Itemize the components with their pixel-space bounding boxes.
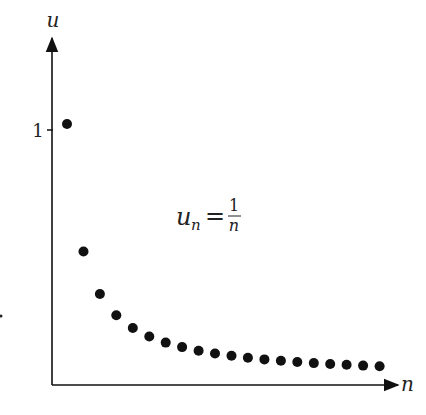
svg-text:n: n <box>229 216 239 235</box>
data-point <box>177 342 187 352</box>
data-point <box>111 310 121 320</box>
data-point <box>210 349 220 359</box>
data-point <box>342 360 352 370</box>
data-point <box>325 359 335 369</box>
data-point <box>194 346 204 356</box>
x-axis-label: n <box>401 372 414 396</box>
y-axis-label: u <box>47 8 60 32</box>
data-point <box>95 289 105 299</box>
svg-text:1: 1 <box>229 196 239 215</box>
data-point <box>128 323 138 333</box>
formula-annotation: u n = 1 n <box>176 196 241 235</box>
data-point <box>358 361 368 371</box>
data-point <box>62 119 72 129</box>
sequence-plot: u n 1 u n = 1 n <box>0 0 426 415</box>
data-point <box>292 357 302 367</box>
data-point <box>79 247 89 257</box>
svg-text:=: = <box>205 202 225 230</box>
data-points <box>62 119 385 371</box>
svg-text:n: n <box>191 216 201 234</box>
data-point <box>309 358 319 368</box>
stray-dot <box>0 315 3 318</box>
data-point <box>276 356 286 366</box>
data-point <box>161 338 171 348</box>
data-point <box>227 351 237 361</box>
svg-text:u: u <box>176 203 191 231</box>
data-point <box>375 361 385 371</box>
data-point <box>243 353 253 363</box>
y-tick-label-1: 1 <box>32 120 43 141</box>
data-point <box>144 332 154 342</box>
data-point <box>259 354 269 364</box>
